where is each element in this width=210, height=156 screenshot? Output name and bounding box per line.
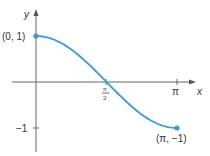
y-axis-arrow-icon xyxy=(34,9,39,16)
x-axis-arrow-icon xyxy=(189,80,196,85)
cosine-graph: y x (0, 1) (π, −1) π π 2 −1 xyxy=(0,0,210,156)
tick-half-pi-numerator: π xyxy=(103,85,107,93)
tick-neg-one-label: −1 xyxy=(16,123,28,134)
end-point-label: (π, −1) xyxy=(156,133,187,144)
tick-pi-label: π xyxy=(172,86,179,97)
start-point-label: (0, 1) xyxy=(2,31,25,42)
y-axis-label: y xyxy=(23,9,30,20)
start-point-marker xyxy=(33,33,38,38)
tick-half-pi-denominator: 2 xyxy=(103,94,107,102)
end-point-marker xyxy=(174,125,179,130)
x-axis-label: x xyxy=(196,86,203,97)
